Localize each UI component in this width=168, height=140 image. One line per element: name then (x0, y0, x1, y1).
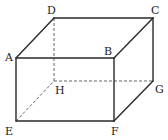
label-C: C (151, 4, 159, 17)
label-G: G (155, 83, 164, 96)
label-H: H (55, 84, 65, 97)
label-E: E (5, 125, 13, 138)
edge-EH (16, 81, 54, 121)
label-A: A (4, 51, 14, 64)
edge-FG (114, 81, 153, 121)
label-D: D (47, 4, 56, 17)
label-B: B (104, 45, 112, 58)
edge-DA (16, 18, 54, 58)
label-F: F (111, 125, 119, 138)
cuboid-diagram: A B C D E F G H (0, 0, 168, 140)
edge-BC (114, 18, 153, 58)
